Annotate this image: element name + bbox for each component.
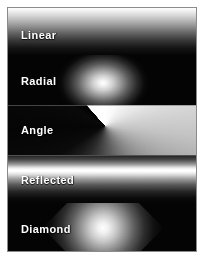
gradient-swatch-reflected: Reflected [8, 155, 196, 203]
figure-frame: Linear Radial Angle Reflected Diamond [7, 7, 197, 252]
gradient-label-linear: Linear [21, 30, 56, 41]
band-divider [8, 105, 196, 106]
gradient-swatch-radial: Radial [8, 55, 196, 105]
gradient-label-radial: Radial [21, 76, 56, 87]
gradient-label-angle: Angle [21, 125, 54, 136]
gradient-swatch-diamond: Diamond [8, 203, 196, 252]
gradient-label-reflected: Reflected [21, 175, 74, 186]
gradient-swatch-angle: Angle [8, 105, 196, 155]
gradient-label-diamond: Diamond [21, 224, 71, 235]
gradient-swatch-linear: Linear [8, 8, 196, 55]
band-divider [8, 155, 196, 156]
gradient-types-figure: Linear Radial Angle Reflected Diamond [0, 0, 206, 265]
